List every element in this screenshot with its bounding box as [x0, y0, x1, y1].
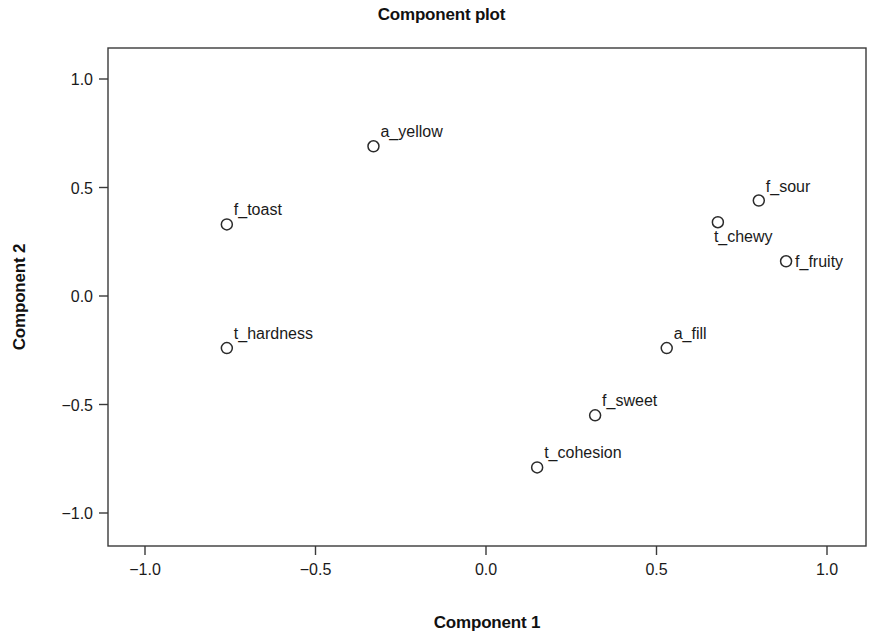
y-tick-label: 1.0 — [71, 71, 93, 88]
component-plot-figure: Component plot −1.0−0.50.00.51.0 1.00.50… — [0, 0, 883, 641]
data-point: a_yellow — [368, 123, 443, 152]
data-point-label: f_toast — [234, 201, 283, 219]
data-point-label: a_yellow — [380, 123, 443, 141]
data-point-label: f_fruity — [795, 253, 843, 271]
y-tick-label: −0.5 — [61, 397, 93, 414]
x-tick-label: 0.0 — [475, 561, 497, 578]
data-point-marker — [221, 343, 232, 354]
data-point-marker — [221, 219, 232, 230]
data-point: t_hardness — [221, 325, 313, 354]
y-tick-label: 0.5 — [71, 180, 93, 197]
x-axis-title: Component 1 — [434, 613, 540, 632]
y-tick-label: −1.0 — [61, 505, 93, 522]
x-axis-ticks: −1.0−0.50.00.51.0 — [129, 546, 838, 578]
data-point-marker — [712, 217, 723, 228]
x-tick-label: −1.0 — [129, 561, 161, 578]
y-axis-title: Component 2 — [10, 244, 29, 350]
x-tick-label: 1.0 — [816, 561, 838, 578]
data-point-label: t_hardness — [234, 325, 313, 343]
data-point: f_toast — [221, 201, 282, 230]
data-point-marker — [368, 141, 379, 152]
data-point-label: f_sour — [766, 178, 811, 196]
data-point-label: f_sweet — [602, 392, 658, 410]
scatter-plot-canvas: −1.0−0.50.00.51.0 1.00.50.0−0.5−1.0 a_ye… — [0, 0, 883, 641]
data-point: t_cohesion — [532, 444, 622, 473]
y-axis-ticks: 1.00.50.0−0.5−1.0 — [61, 71, 108, 522]
data-point-label: a_fill — [674, 325, 707, 343]
plot-frame — [108, 48, 866, 546]
x-tick-label: −0.5 — [300, 561, 332, 578]
data-point-group: a_yellowf_toastt_hardnessf_sourt_chewyf_… — [221, 123, 843, 473]
data-point: f_sour — [753, 178, 811, 207]
data-point-marker — [590, 410, 601, 421]
data-point: f_sweet — [590, 392, 658, 421]
data-point: t_chewy — [712, 217, 772, 247]
data-point: a_fill — [661, 325, 706, 354]
data-point-label: t_cohesion — [544, 444, 621, 462]
data-point-marker — [753, 195, 764, 206]
data-point-marker — [661, 343, 672, 354]
data-point: f_fruity — [781, 253, 844, 271]
data-point-label: t_chewy — [714, 228, 773, 246]
data-point-marker — [532, 462, 543, 473]
data-point-marker — [781, 256, 792, 267]
y-tick-label: 0.0 — [71, 288, 93, 305]
x-tick-label: 0.5 — [645, 561, 667, 578]
